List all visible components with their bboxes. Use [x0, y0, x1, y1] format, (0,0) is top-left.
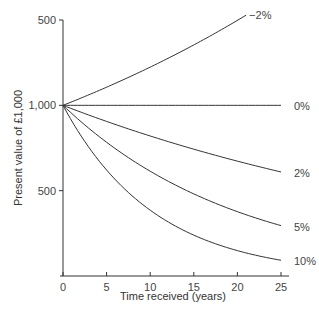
y-tick-label: 500: [38, 185, 56, 197]
present-value-chart: 0510152025 5001,000500 −2%0%2%5%10% Time…: [0, 0, 319, 319]
y-tick-label: 1,000: [28, 99, 56, 111]
x-tick-label: 25: [275, 281, 287, 293]
axes: [60, 20, 289, 276]
series-line: [63, 105, 281, 172]
x-tick-label: 0: [60, 281, 66, 293]
series-line: [63, 15, 246, 105]
x-tick-label: 20: [231, 281, 243, 293]
y-ticks: 5001,000500: [28, 14, 63, 197]
x-axis-label: Time received (years): [120, 290, 226, 302]
series-line: [63, 105, 281, 225]
series-label: 5%: [294, 221, 310, 233]
series-label: 0%: [294, 100, 310, 112]
y-axis-label: Present value of £1,000: [12, 90, 24, 206]
series-label: 10%: [294, 255, 316, 267]
series-label: −2%: [249, 9, 272, 21]
y-tick-label: 500: [38, 14, 56, 26]
curves: [63, 15, 281, 260]
series-label: 2%: [294, 167, 310, 179]
series-labels: −2%0%2%5%10%: [249, 9, 316, 267]
x-tick-label: 5: [104, 281, 110, 293]
